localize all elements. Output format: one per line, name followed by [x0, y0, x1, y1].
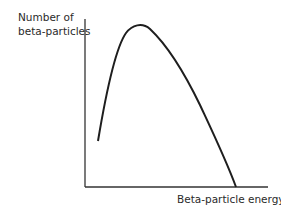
x-axis-label: Beta-particle energy: [177, 193, 281, 206]
chart-plot: [0, 0, 281, 207]
spectrum-curve: [98, 25, 236, 187]
